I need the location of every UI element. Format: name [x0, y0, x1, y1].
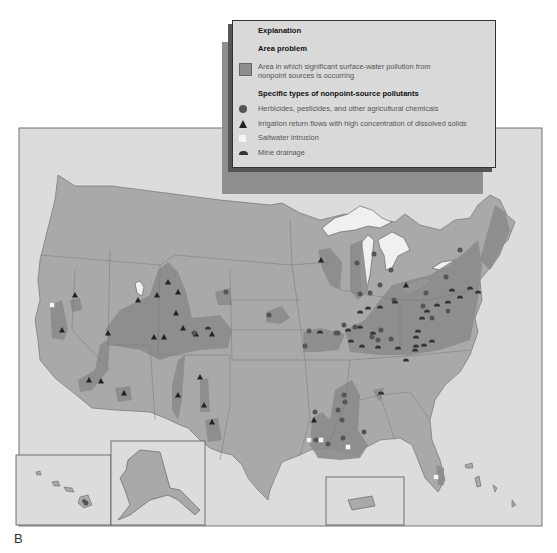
herbicide-circle-marker	[444, 275, 449, 280]
saltwater-square-marker	[434, 475, 439, 480]
herbicide-circle-marker	[336, 331, 341, 336]
herbicide-circle-marker	[336, 408, 341, 413]
legend-item-irrigation: Irrigation return flows with high concen…	[258, 119, 467, 128]
herbicide-circle-marker	[389, 268, 394, 273]
legend-types-heading: Specific types of nonpoint-source pollut…	[258, 89, 419, 98]
herbicide-circle-marker	[446, 309, 451, 314]
figure-label: B	[14, 531, 23, 546]
herbicide-circle-marker	[303, 344, 308, 349]
herbicide-circle-marker	[372, 252, 377, 257]
herbicide-circle-marker	[421, 304, 426, 309]
legend-item-mine-drainage: Mine drainage	[258, 148, 305, 157]
herbicide-circle-marker	[340, 418, 345, 423]
herbicide-circle-marker	[341, 436, 346, 441]
herbicide-circle-marker	[376, 338, 381, 343]
herbicide-circle-marker	[379, 328, 384, 333]
saltwater-square-marker	[50, 303, 55, 308]
herbicide-circle-marker	[430, 316, 435, 321]
saltwater-square-marker	[307, 438, 312, 443]
herbicide-circle-marker	[267, 313, 272, 318]
herbicide-circle-marker	[368, 291, 373, 296]
inset-hawaii	[16, 455, 111, 525]
herbicide-circle-marker	[342, 393, 347, 398]
saltwater-square-marker	[346, 445, 351, 450]
herbicide-circle-marker	[313, 410, 318, 415]
square-icon	[239, 135, 246, 142]
legend-area-line1: Area in which significant surface-water …	[258, 62, 431, 71]
legend-item-herbicides: Herbicides, pesticides, and other agricu…	[258, 104, 438, 113]
herbicide-circle-marker	[424, 291, 429, 296]
legend-title: Explanation	[258, 26, 301, 35]
inset-alaska	[111, 441, 205, 525]
herbicide-circle-marker	[192, 331, 197, 336]
herbicide-circle-marker	[458, 248, 463, 253]
herbicide-circle-marker	[314, 438, 319, 443]
herbicide-circle-marker	[353, 325, 358, 330]
herbicide-circle-marker	[378, 283, 383, 288]
area-swatch-icon	[239, 63, 252, 76]
herbicide-circle-marker	[389, 337, 394, 342]
dome-icon	[239, 151, 248, 155]
herbicide-circle-marker	[84, 501, 89, 506]
legend-area-line2: nonpoint sources is occurring	[258, 71, 354, 80]
herbicide-circle-marker	[342, 323, 347, 328]
legend-item-saltwater: Saltwater intrusion	[258, 133, 319, 142]
problem-area-nevada	[70, 298, 82, 312]
herbicide-circle-marker	[343, 400, 348, 405]
triangle-icon	[239, 120, 247, 128]
saltwater-square-marker	[319, 438, 324, 443]
herbicide-circle-marker	[358, 292, 363, 297]
herbicide-circle-marker	[355, 261, 360, 266]
herbicide-circle-marker	[307, 329, 312, 334]
inset-puerto-rico	[326, 477, 404, 525]
legend: Explanation Area problem Area in which s…	[232, 20, 496, 168]
legend-area-heading: Area problem	[258, 44, 307, 53]
herbicide-circle-marker	[224, 290, 229, 295]
herbicide-circle-marker	[362, 430, 367, 435]
herbicide-circle-marker	[370, 335, 375, 340]
herbicide-circle-marker	[326, 442, 331, 447]
circle-icon	[239, 105, 247, 113]
